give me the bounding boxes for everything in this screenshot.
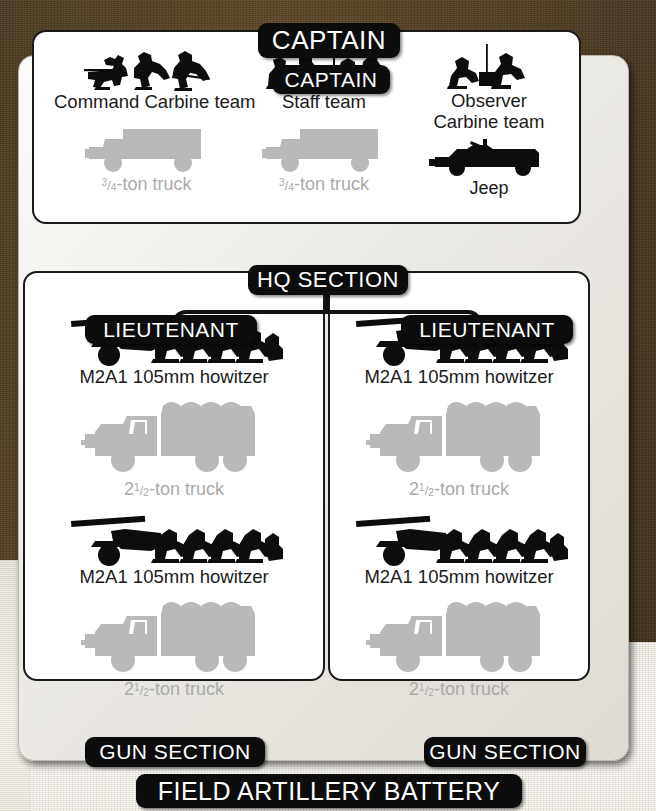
gun-vehicle-label: 21/2-ton truck — [334, 680, 584, 700]
cargo-truck-6x6-icon — [49, 594, 299, 680]
hq-unit-label-line1: Observer — [414, 90, 564, 111]
battery-commander-label: CAPTAIN — [258, 23, 400, 58]
gun-label: M2A1 105mm howitzer — [49, 367, 299, 388]
hq-unit-command-carbine: Command Carbine team 3/4-ton truck — [54, 46, 239, 195]
hq-unit-observer-carbine: Observer Carbine team Jeep — [414, 42, 564, 198]
three-crouching-soldiers-carbine-icon — [54, 46, 239, 92]
gun-section-label-left: GUN SECTION — [85, 737, 265, 767]
quarter-ton-weapons-carrier-icon — [54, 119, 239, 175]
chart-title: FIELD ARTILLERY BATTERY — [136, 774, 522, 808]
hq-unit-label: Command Carbine team — [54, 92, 239, 113]
cargo-truck-6x6-icon — [334, 394, 584, 480]
jeep-icon — [414, 135, 564, 179]
gun-vehicle-label: 21/2-ton truck — [49, 680, 299, 700]
gun-unit: M2A1 105mm howitzer — [334, 515, 584, 700]
hq-section-label: HQ SECTION — [248, 265, 408, 295]
hq-commander-label: CAPTAIN — [272, 65, 390, 94]
gun-label: M2A1 105mm howitzer — [334, 367, 584, 388]
gun-vehicle-label: 21/2-ton truck — [49, 480, 299, 500]
hq-unit-vehicle-label: Jeep — [414, 179, 564, 199]
gun-section-label-right: GUN SECTION — [424, 737, 586, 767]
cargo-truck-6x6-icon — [49, 394, 299, 480]
gun-vehicle-label: 21/2-ton truck — [334, 480, 584, 500]
hq-unit-vehicle-label: 3/4-ton truck — [249, 175, 399, 195]
quarter-ton-weapons-carrier-icon — [249, 119, 399, 175]
gun-unit: M2A1 105mm howitzer — [49, 515, 299, 700]
hq-unit-label: Staff team — [249, 92, 399, 113]
howitzer-with-five-crew-icon — [49, 515, 299, 567]
hq-unit-vehicle-label: 3/4-ton truck — [54, 175, 239, 195]
gun-label: M2A1 105mm howitzer — [49, 567, 299, 588]
howitzer-with-five-crew-icon — [334, 515, 584, 567]
two-kneeling-observers-radio-icon — [414, 42, 564, 90]
gun-section-commander-label-left: LIEUTENANT — [85, 315, 257, 344]
organization-chart-root: CAPTAIN Com — [0, 0, 656, 811]
hq-section-panel: Command Carbine team 3/4-ton truck — [32, 30, 581, 224]
gun-label: M2A1 105mm howitzer — [334, 567, 584, 588]
hq-unit-label-line2: Carbine team — [414, 111, 564, 132]
gun-section-commander-label-right: LIEUTENANT — [401, 315, 573, 344]
cargo-truck-6x6-icon — [334, 594, 584, 680]
